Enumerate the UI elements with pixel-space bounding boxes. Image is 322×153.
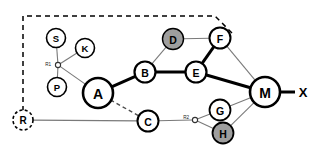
node-label-a: A (93, 86, 103, 102)
node-label-c: C (144, 116, 152, 128)
node-label-f: F (217, 33, 224, 45)
node-e[interactable]: E (186, 62, 207, 83)
node-a[interactable]: A (83, 78, 113, 108)
edge-s-r1 (57, 47, 58, 63)
node-label-h: H (219, 128, 227, 140)
terminal-layer: X (299, 85, 308, 100)
node-f[interactable]: F (210, 28, 231, 49)
edge-k-r1 (60, 53, 77, 64)
node-s[interactable]: S (47, 29, 66, 48)
node-h[interactable]: H (213, 123, 234, 144)
junction-r1 (55, 62, 60, 67)
node-label-d: D (169, 34, 177, 46)
edge-r2-g (197, 114, 210, 119)
junction-label-r1: R1 (45, 62, 51, 67)
edge-c-r2 (158, 120, 193, 121)
node-b[interactable]: B (135, 62, 156, 83)
diagram-canvas: R1R2 RSKPABCDEFGHM X (0, 0, 322, 153)
edge-b-d (151, 47, 166, 65)
edge-e-m (206, 75, 252, 88)
edge-r2-h (197, 121, 214, 129)
node-label-p: P (54, 82, 61, 93)
node-label-s: S (53, 33, 59, 44)
edge-d-f (183, 38, 210, 39)
node-d[interactable]: D (163, 29, 184, 50)
node-m[interactable]: M (250, 77, 280, 107)
node-g[interactable]: G (210, 100, 231, 121)
edge-a-c (110, 100, 139, 116)
node-c[interactable]: C (138, 111, 159, 132)
node-label-e: E (192, 67, 199, 79)
edge-r-c (32, 120, 138, 121)
edge-e-f (202, 46, 214, 64)
node-label-k: K (82, 43, 89, 54)
node-p[interactable]: P (48, 78, 67, 97)
terminal-label-x: X (299, 85, 308, 100)
edge-g-m (229, 97, 252, 106)
junction-r2 (192, 117, 197, 122)
node-label-b: B (141, 67, 149, 79)
edge-f-m (226, 46, 255, 81)
node-label-r: R (19, 115, 27, 126)
network-diagram: R1R2 RSKPABCDEFGHM X (0, 0, 322, 153)
junction-label-r2: R2 (183, 115, 189, 120)
edge-a-b (111, 76, 136, 87)
node-label-g: G (216, 105, 224, 117)
node-k[interactable]: K (76, 39, 95, 58)
node-label-m: M (259, 85, 271, 101)
edge-h-m (230, 102, 255, 126)
node-r[interactable]: R (13, 110, 33, 130)
